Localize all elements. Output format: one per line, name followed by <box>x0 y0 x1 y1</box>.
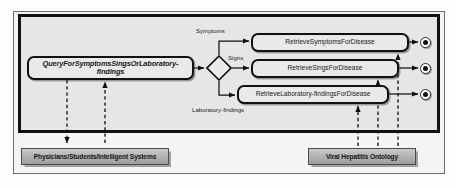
final-node-signs <box>420 63 431 74</box>
diagram-canvas: QueryForSymptomsSingsOrLaboratory-findin… <box>0 0 456 188</box>
actor-physicians-students-intelligent-systems[interactable]: Physicians/Students/Intelligent Systems <box>21 148 169 165</box>
final-node-laboratory-findings <box>420 89 431 100</box>
final-node-symptoms <box>420 37 431 48</box>
edge-label-signs: Signs <box>228 54 243 61</box>
node-query-for-symptoms[interactable]: QueryForSymptomsSingsOrLaboratory-findin… <box>27 56 194 80</box>
actor-viral-hepatitis-ontology[interactable]: Viral Hepatitis Ontology <box>308 148 416 165</box>
node-retrieve-signs-for-disease[interactable]: RetrieveSingsForDisease <box>251 59 399 78</box>
edge-label-symptoms: Symptoms <box>196 27 225 34</box>
node-retrieve-symptoms-for-disease[interactable]: RetrieveSymptomsForDisease <box>251 33 409 52</box>
node-retrieve-laboratory-findings-for-disease[interactable]: RetrieveLaboratory-findingsForDisease <box>237 85 389 104</box>
edge-label-laboratory-findings: Laboratory-findings <box>192 106 244 113</box>
